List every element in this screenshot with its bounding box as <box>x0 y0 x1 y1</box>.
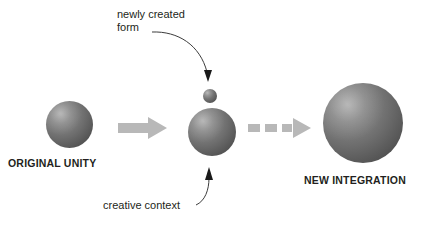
creative-context-sphere <box>188 108 236 156</box>
diagram-canvas: ORIGINAL UNITY NEW INTEGRATION newly cre… <box>0 0 437 229</box>
new-integration-sphere <box>323 83 403 163</box>
newly-created-form-sphere <box>203 89 217 103</box>
label-newly-created-form-line1: newly created <box>117 8 185 21</box>
creative-context-leader <box>196 167 213 205</box>
label-original-unity: ORIGINAL UNITY <box>8 157 96 169</box>
dashed-arrow <box>248 118 311 138</box>
label-newly-created-form: newly created form <box>117 8 185 34</box>
original-unity-sphere <box>46 101 93 148</box>
label-newly-created-form-line2: form <box>117 21 185 34</box>
newly-created-form-leader <box>152 32 212 82</box>
label-creative-context: creative context <box>103 199 180 212</box>
solid-arrow <box>118 117 167 139</box>
label-new-integration: NEW INTEGRATION <box>304 174 406 186</box>
